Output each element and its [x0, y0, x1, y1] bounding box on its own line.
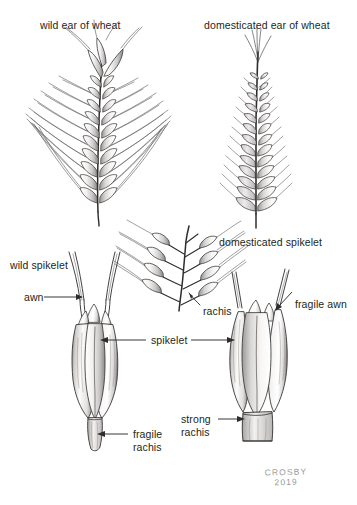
label-spikelet: spikelet — [151, 334, 187, 347]
label-strong-rachis-line1: strong — [181, 413, 211, 425]
label-strong-rachis-line2: rachis — [181, 426, 210, 438]
domesticated-spikelet-drawing — [230, 269, 289, 441]
wild-spikelet-drawing — [69, 252, 120, 451]
rachis-detail-drawing — [114, 220, 248, 311]
wheat-domestication-figure: wild ear of wheat domesticated ear of wh… — [0, 0, 357, 505]
domesticated-ear-drawing — [220, 27, 292, 228]
label-domesticated-spikelet: domesticated spikelet — [219, 236, 322, 249]
artist-signature: CROSBY 2019 — [258, 466, 315, 487]
signature-artist: CROSBY — [264, 466, 307, 477]
label-wild-ear-of-wheat: wild ear of wheat — [40, 19, 121, 32]
label-fragile-rachis-line2: rachis — [133, 441, 162, 453]
label-domesticated-ear-of-wheat: domesticated ear of wheat — [204, 19, 330, 32]
label-strong-rachis: strong rachis — [181, 413, 225, 438]
label-fragile-rachis: fragile rachis — [133, 428, 179, 453]
label-fragile-awn: fragile awn — [295, 298, 347, 311]
label-rachis: rachis — [203, 305, 232, 318]
signature-year: 2019 — [274, 477, 298, 488]
label-wild-spikelet: wild spikelet — [10, 259, 68, 272]
label-fragile-rachis-line1: fragile — [133, 428, 162, 440]
wild-ear-drawing — [26, 20, 171, 226]
label-awn: awn — [24, 291, 44, 304]
